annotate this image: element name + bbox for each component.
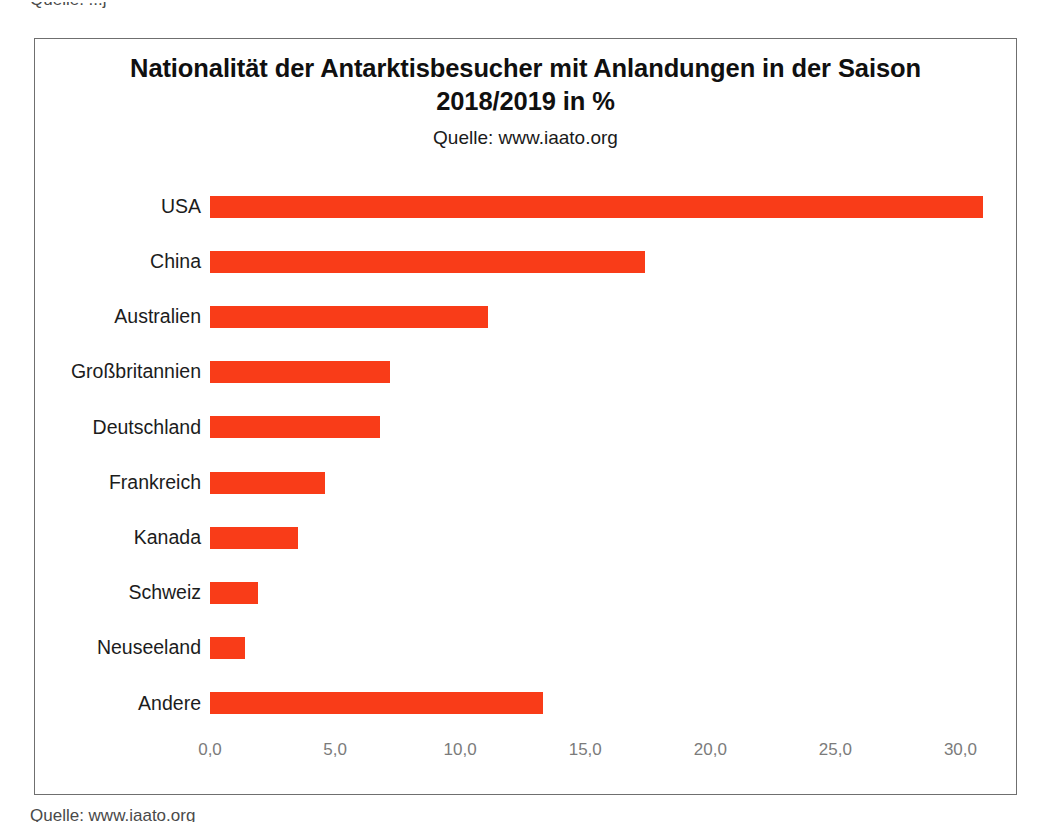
bar xyxy=(210,361,390,383)
x-tick-label: 0,0 xyxy=(198,741,222,758)
bar xyxy=(210,251,645,273)
category-label: Schweiz xyxy=(128,583,201,603)
category-label: Neuseeland xyxy=(97,638,201,658)
bar-row: Andere xyxy=(210,692,1018,714)
scan-fragment-bottom: Quelle: www.iaato.org xyxy=(30,806,195,825)
chart-frame: Nationalität der Antarktisbesucher mit A… xyxy=(34,38,1017,795)
x-tick-label: 10,0 xyxy=(444,741,477,758)
bar-row: Neuseeland xyxy=(210,637,1018,659)
bar-row: Kanada xyxy=(210,527,1018,549)
bar xyxy=(210,196,983,218)
bar xyxy=(210,306,488,328)
bar xyxy=(210,637,245,659)
bar-row: Schweiz xyxy=(210,582,1018,604)
category-label: China xyxy=(150,252,201,272)
bar-row: Frankreich xyxy=(210,472,1018,494)
category-label: Deutschland xyxy=(93,418,201,438)
bar xyxy=(210,527,298,549)
x-tick-label: 15,0 xyxy=(569,741,602,758)
bar xyxy=(210,416,380,438)
category-label: USA xyxy=(161,197,201,217)
bar xyxy=(210,582,258,604)
bar-row: China xyxy=(210,251,1018,273)
scan-fragment-top: Quelle: ...j xyxy=(30,0,107,10)
category-label: Frankreich xyxy=(109,473,201,493)
x-tick-label: 20,0 xyxy=(694,741,727,758)
plot-area: USAChinaAustralienGroßbritannienDeutschl… xyxy=(210,179,1018,789)
bar-row: Australien xyxy=(210,306,1018,328)
category-label: Großbritannien xyxy=(71,362,201,382)
bar-row: Deutschland xyxy=(210,416,1018,438)
bar xyxy=(210,692,543,714)
bar-row: USA xyxy=(210,196,1018,218)
x-tick-label: 5,0 xyxy=(323,741,347,758)
title-block: Nationalität der Antarktisbesucher mit A… xyxy=(35,52,1016,149)
bar-rows: USAChinaAustralienGroßbritannienDeutschl… xyxy=(210,179,1018,731)
bar xyxy=(210,472,325,494)
x-tick-label: 30,0 xyxy=(944,741,977,758)
category-label: Kanada xyxy=(134,528,201,548)
category-label: Australien xyxy=(114,307,201,327)
bar-row: Großbritannien xyxy=(210,361,1018,383)
x-axis-ticks: 0,05,010,015,020,025,030,0 xyxy=(210,741,1018,763)
x-tick-label: 25,0 xyxy=(819,741,852,758)
chart-title: Nationalität der Antarktisbesucher mit A… xyxy=(35,52,1016,117)
category-label: Andere xyxy=(138,694,201,714)
chart-subtitle-source: Quelle: www.iaato.org xyxy=(35,127,1016,149)
